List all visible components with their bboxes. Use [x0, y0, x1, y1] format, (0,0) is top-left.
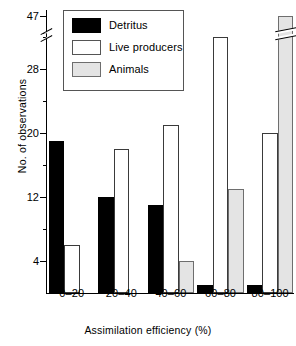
y-tick-20: [40, 133, 46, 134]
y-minor-tick-8: [43, 229, 47, 230]
x-category-label-80-100: 80–100: [251, 287, 288, 299]
y-tick-label-47: 47: [27, 11, 39, 22]
y-tick-label-12: 12: [27, 192, 39, 203]
bar-animals-60-80: [228, 189, 244, 293]
y-minor-tick-16: [43, 165, 47, 166]
legend-item-live-producers: Live producers: [72, 40, 183, 55]
legend-item-animals: Animals: [72, 62, 183, 77]
bar-chart-figure: No. of observations Assimilation efficie…: [0, 0, 296, 346]
bar-producers-0-20: [64, 245, 80, 293]
bar-detritus-20-40: [98, 197, 114, 293]
bar-producers-20-40: [114, 149, 130, 293]
y-axis-line: [46, 10, 47, 294]
y-tick-12: [40, 197, 46, 198]
x-category-label-0-20: 0–20: [59, 287, 84, 299]
bar-break-mark-80-100: [277, 25, 296, 41]
legend-swatch-icon-detritus: [72, 18, 101, 33]
bar-producers-40-60: [163, 125, 179, 293]
x-category-label-60-80: 60–80: [205, 287, 236, 299]
bar-detritus-0-20: [49, 141, 65, 293]
y-tick-4: [40, 261, 46, 262]
x-axis-title: Assimilation efficiency (%): [0, 324, 296, 336]
legend-swatch-icon-animals: [72, 62, 101, 77]
legend-swatch-icon-producers: [72, 40, 101, 55]
bar-detritus-40-60: [148, 205, 164, 293]
x-category-label-20-40: 20–40: [106, 287, 137, 299]
y-tick-label-4: 4: [33, 256, 39, 267]
legend-item-detritus: Detritus: [72, 18, 183, 33]
y-axis-break-icon: [41, 28, 53, 42]
bar-producers-80-100: [262, 133, 278, 293]
x-category-label-40-60: 40–60: [155, 287, 186, 299]
legend-label: Animals: [109, 64, 149, 75]
legend: DetritusLive producersAnimals: [63, 10, 184, 91]
bar-animals-80-100: [278, 16, 294, 293]
legend-label: Detritus: [109, 20, 148, 31]
y-tick-47: [40, 16, 46, 17]
legend-label: Live producers: [109, 42, 183, 53]
bar-producers-60-80: [213, 37, 229, 293]
y-tick-label-28: 28: [27, 64, 39, 75]
y-tick-label-20: 20: [27, 128, 39, 139]
y-tick-28: [40, 69, 46, 70]
y-minor-tick-24: [43, 101, 47, 102]
